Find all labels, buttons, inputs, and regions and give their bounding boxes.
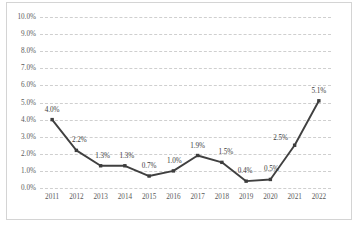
- data-label: 1.9%: [190, 142, 205, 150]
- x-tick-label: 2019: [239, 193, 253, 201]
- chart-container: 0.0%1.0%2.0%3.0%4.0%5.0%6.0%7.0%8.0%9.0%…: [0, 0, 359, 226]
- x-tick-label: 2016: [166, 193, 180, 201]
- data-point-marker: [244, 179, 247, 182]
- line-series: [40, 17, 331, 188]
- data-point-marker: [172, 169, 175, 172]
- y-tick-label: 5.0%: [21, 99, 36, 107]
- data-point-marker: [196, 154, 199, 157]
- data-point-marker: [99, 164, 102, 167]
- data-label: 1.3%: [119, 152, 134, 160]
- data-label: 1.0%: [167, 157, 182, 165]
- data-label: 0.5%: [264, 165, 279, 173]
- x-tick-label: 2022: [312, 193, 326, 201]
- x-tick-label: 2020: [263, 193, 277, 201]
- y-tick-label: 2.0%: [21, 150, 36, 158]
- data-label: 2.2%: [72, 136, 87, 144]
- data-label: 1.5%: [218, 148, 233, 156]
- x-tick-label: 2015: [142, 193, 156, 201]
- y-tick-label: 3.0%: [21, 133, 36, 141]
- data-point-marker: [269, 178, 272, 181]
- x-tick-label: 2017: [190, 193, 204, 201]
- data-point-marker: [147, 174, 150, 177]
- y-tick-label: 0.0%: [21, 184, 36, 192]
- data-point-marker: [317, 99, 320, 102]
- data-label: 1.3%: [95, 152, 110, 160]
- data-point-marker: [293, 144, 296, 147]
- data-label: 0.7%: [142, 162, 157, 170]
- y-tick-label: 10.0%: [17, 13, 36, 21]
- x-tick-label: 2014: [118, 193, 132, 201]
- y-tick-label: 6.0%: [21, 81, 36, 89]
- data-point-marker: [75, 149, 78, 152]
- data-label: 4.0%: [45, 106, 60, 114]
- y-tick-label: 9.0%: [21, 30, 36, 38]
- gridline: [40, 188, 331, 189]
- data-point-marker: [123, 164, 126, 167]
- x-tick-label: 2021: [287, 193, 301, 201]
- y-tick-label: 8.0%: [21, 47, 36, 55]
- y-tick-label: 4.0%: [21, 116, 36, 124]
- x-tick-label: 2018: [215, 193, 229, 201]
- data-point-marker: [220, 161, 223, 164]
- data-label: 0.4%: [238, 167, 253, 175]
- x-tick-label: 2012: [69, 193, 83, 201]
- data-label: 2.5%: [273, 134, 288, 142]
- y-tick-label: 7.0%: [21, 64, 36, 72]
- data-point-marker: [50, 118, 53, 121]
- plot-area: 0.0%1.0%2.0%3.0%4.0%5.0%6.0%7.0%8.0%9.0%…: [40, 17, 331, 188]
- x-tick-label: 2013: [93, 193, 107, 201]
- y-tick-label: 1.0%: [21, 167, 36, 175]
- x-tick-label: 2011: [45, 193, 59, 201]
- data-label: 5.1%: [311, 87, 326, 95]
